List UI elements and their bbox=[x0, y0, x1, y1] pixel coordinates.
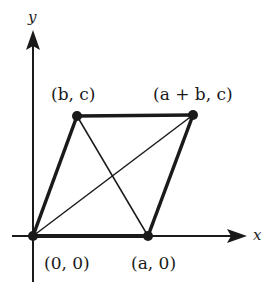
point-abc bbox=[188, 110, 198, 120]
parallelogram-diagram: y x (b, c) (a + b, c) (0, 0) (a, 0) bbox=[0, 0, 279, 291]
diagonal-bc-to-a0 bbox=[77, 116, 148, 236]
label-a0: (a, 0) bbox=[131, 255, 176, 272]
label-bc: (b, c) bbox=[51, 86, 95, 103]
point-a0 bbox=[143, 231, 153, 241]
label-origin: (0, 0) bbox=[44, 255, 90, 272]
side-origin-to-bc bbox=[33, 116, 77, 236]
diagram-canvas bbox=[0, 0, 279, 291]
point-bc bbox=[72, 111, 82, 121]
point-origin bbox=[28, 231, 38, 241]
side-bc-to-abc bbox=[77, 115, 193, 116]
side-a0-to-abc bbox=[148, 115, 193, 236]
label-abc: (a + b, c) bbox=[153, 86, 233, 103]
y-axis-label: y bbox=[28, 10, 36, 25]
x-axis-label: x bbox=[253, 228, 261, 243]
